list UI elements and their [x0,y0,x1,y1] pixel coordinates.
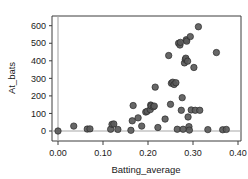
data-point [162,116,168,122]
data-point [128,127,134,133]
data-point [71,123,77,129]
data-point [111,121,117,127]
data-point [191,64,197,70]
x-tick-label: 0.10 [94,148,112,158]
data-point [115,126,121,132]
data-point [151,103,157,109]
data-point [174,126,180,132]
data-point [155,124,161,130]
data-points [55,24,230,135]
data-point [184,58,190,64]
data-point [130,102,136,108]
y-tick-label: 300 [31,74,46,84]
x-tick-label: 0.00 [49,148,67,158]
data-point [167,101,173,107]
y-axis: 0100200300400500600 [31,21,52,136]
data-point [185,114,191,120]
data-point [55,128,61,134]
y-tick-label: 400 [31,56,46,66]
plot-frame [52,16,241,141]
data-point [213,49,219,55]
x-axis-title: Batting_average [111,164,180,175]
data-point [139,123,145,129]
data-point [223,126,229,132]
data-point [205,126,211,132]
plot-svg: 0100200300400500600 0.000.100.200.300.40… [0,0,248,179]
data-point [135,115,141,121]
reference-lines [52,16,241,141]
data-point [152,84,158,90]
y-tick-label: 500 [31,38,46,48]
data-point [166,52,172,58]
data-point [87,126,93,132]
data-point [186,127,192,133]
data-point [179,94,185,100]
y-tick-label: 100 [31,109,46,119]
x-tick-label: 0.30 [184,148,202,158]
y-axis-title: At_bats [6,62,17,94]
data-point [177,39,183,45]
data-point [195,24,201,30]
scatter-plot-figure: 0100200300400500600 0.000.100.200.300.40… [0,0,248,179]
x-tick-label: 0.20 [139,148,157,158]
data-point [173,80,179,86]
x-axis: 0.000.100.200.300.40 [49,141,247,158]
y-tick-label: 0 [41,126,46,136]
data-point [187,33,193,39]
data-point [197,107,203,113]
y-tick-label: 600 [31,21,46,31]
x-tick-label: 0.40 [229,148,247,158]
y-tick-label: 200 [31,91,46,101]
data-point [180,126,186,132]
data-point [129,118,135,124]
data-point [178,107,184,113]
